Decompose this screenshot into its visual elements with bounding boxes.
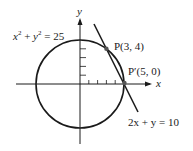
- x-axis-label: x: [156, 78, 161, 89]
- point-P-prime-label: P′(5, 0): [128, 66, 160, 77]
- diagram-canvas: [0, 0, 193, 151]
- y-axis-label: y: [77, 6, 82, 17]
- x-axis-ticks: [89, 80, 115, 84]
- y-axis-arrow-icon: [78, 18, 83, 25]
- x-axis-arrow-icon: [145, 82, 152, 87]
- point-P: [104, 47, 108, 51]
- point-P-prime: [122, 81, 126, 85]
- circle-equation-label: x2 + y2 = 25: [13, 30, 64, 42]
- y-axis-ticks: [80, 49, 86, 75]
- line-equation-label: 2x + y = 10: [128, 117, 179, 128]
- point-P-label: P(3, 4): [114, 41, 144, 52]
